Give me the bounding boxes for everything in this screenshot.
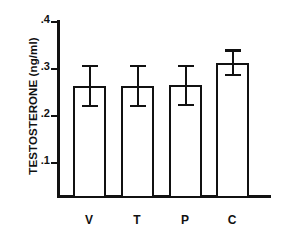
x-category-label-p: P <box>165 214 205 226</box>
x-category-label-c: C <box>212 214 252 226</box>
y-axis-line <box>57 20 60 197</box>
y-tick-label-04: .4 <box>26 14 50 25</box>
y-tick-label-03: .3 <box>26 61 50 72</box>
y-tick-mark-01 <box>51 162 59 164</box>
x-category-label-t: T <box>117 214 157 226</box>
bar-chart-figure: TESTOSTERONE (ng/ml) .4 .3 .2 .1 <box>0 0 282 247</box>
y-tick-label-01: .1 <box>26 155 50 166</box>
y-tick-mark-02 <box>51 115 59 117</box>
x-category-label-v: V <box>69 214 109 226</box>
y-tick-mark-04 <box>51 21 59 23</box>
y-tick-mark-03 <box>51 68 59 70</box>
plot-area: .4 .3 .2 .1 V T P C <box>0 0 282 247</box>
y-tick-label-02: .2 <box>26 108 50 119</box>
bar-c <box>216 63 249 196</box>
